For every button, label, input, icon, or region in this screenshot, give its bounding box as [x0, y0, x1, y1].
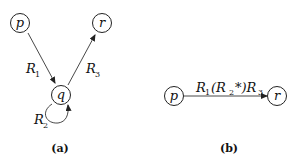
node-q: q	[52, 86, 71, 105]
svg-text:2: 2	[43, 121, 48, 130]
svg-text:3: 3	[258, 88, 263, 97]
svg-text:*)R: *)R	[235, 80, 257, 95]
edge-label-r3: R 3	[85, 61, 100, 79]
node-r: r	[93, 14, 112, 33]
svg-text:q: q	[57, 87, 65, 102]
edge-q-r	[68, 35, 95, 85]
state-elimination-diagram: p q r R 1 R 2 R 3 (a) p	[0, 0, 304, 163]
node-r-b: r	[268, 87, 287, 106]
edge-q-self-loop	[45, 104, 68, 123]
caption-b: (b)	[220, 142, 238, 155]
svg-text:p: p	[170, 88, 179, 103]
svg-text:1: 1	[205, 88, 210, 97]
svg-text:2: 2	[229, 88, 234, 97]
diagram-b: p r R 1 (R 2 *)R 3 (b)	[165, 80, 287, 155]
edge-label-regex: R 1 (R 2 *)R 3	[195, 80, 263, 97]
diagram-a: p q r R 1 R 2 R 3 (a)	[11, 14, 112, 156]
svg-text:p: p	[16, 15, 25, 30]
node-p-b: p	[165, 87, 184, 106]
edge-label-r1: R 1	[25, 61, 40, 79]
svg-text:r: r	[99, 15, 106, 30]
svg-text:3: 3	[95, 70, 100, 79]
caption-a: (a)	[51, 142, 69, 155]
svg-text:(R: (R	[211, 80, 226, 95]
node-p: p	[11, 14, 30, 33]
svg-text:r: r	[274, 88, 281, 103]
svg-text:1: 1	[35, 70, 40, 79]
